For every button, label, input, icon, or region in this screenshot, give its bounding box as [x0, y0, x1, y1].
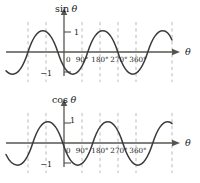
- cos-ticklabel-360: 360°: [129, 146, 146, 155]
- sin-graph-panel: sinθ θ 1 −1 0 90° 180° 270° 360°: [0, 0, 200, 92]
- sin-origin-label: 0: [66, 55, 71, 64]
- cos-function-label: cosθ: [52, 94, 76, 105]
- sin-plot-svg: sinθ θ 1 −1 0 90° 180° 270° 360°: [0, 0, 200, 92]
- cos-theta-axis-label: θ: [185, 137, 191, 148]
- cos-y-axis: [61, 99, 67, 167]
- sin-theta-axis-label: θ: [185, 46, 191, 57]
- cos-ticklabel-270: 270°: [110, 146, 127, 155]
- sin-function-label: sinθ: [55, 3, 78, 14]
- trig-graphs-figure: sinθ θ 1 −1 0 90° 180° 270° 360°: [0, 0, 200, 183]
- sin-ticklabel-270: 270°: [110, 55, 127, 64]
- sin-ticklabel-90: 90°: [76, 55, 89, 64]
- cos-ylabel-negative: −1: [40, 160, 52, 169]
- sin-ticklabel-360: 360°: [129, 55, 146, 64]
- cos-ticklabel-180: 180°: [91, 146, 108, 155]
- cos-plot-svg: cosθ θ 1 −1 0 90° 180° 270° 360°: [0, 91, 200, 183]
- cos-origin-label: 0: [66, 146, 71, 155]
- cos-ticklabel-90: 90°: [76, 146, 89, 155]
- x-axis-arrowhead: [172, 49, 180, 55]
- cos-graph-panel: cosθ θ 1 −1 0 90° 180° 270° 360°: [0, 91, 200, 183]
- sin-ylabel-negative: −1: [40, 69, 52, 78]
- x-axis-arrowhead: [172, 140, 180, 146]
- sin-ylabel-positive: 1: [74, 28, 79, 37]
- cos-ylabel-positive: 1: [70, 116, 75, 125]
- sin-ticklabel-180: 180°: [91, 55, 108, 64]
